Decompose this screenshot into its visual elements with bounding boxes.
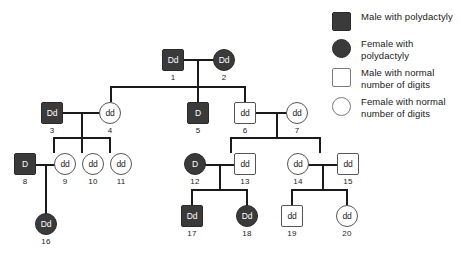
genotype-label-1: Dd (168, 56, 178, 65)
individual-8[interactable]: D (14, 153, 36, 175)
individual-18[interactable]: Dd (236, 205, 258, 227)
genotype-label-9: dd (60, 160, 69, 169)
individual-17[interactable]: Dd (181, 205, 203, 227)
id-label-12: 12 (182, 177, 208, 186)
descent-line-6-7 (276, 112, 278, 138)
sibling-drop-20 (346, 189, 348, 206)
genotype-label-11: dd (116, 160, 125, 169)
individual-1[interactable]: Dd (162, 49, 184, 71)
descent-line-8-9 (45, 164, 47, 214)
genotype-label-16: Dd (41, 220, 51, 229)
individual-7[interactable]: dd (286, 102, 308, 124)
genotype-label-6: dd (240, 109, 249, 118)
legend-item-female-affected: Female with polydactyly (332, 37, 462, 61)
sibling-drop-9 (53, 137, 55, 153)
genotype-label-18: Dd (242, 212, 252, 221)
id-label-3: 3 (39, 126, 65, 135)
sibling-drop-14 (319, 137, 321, 153)
individual-20[interactable]: dd (336, 205, 358, 227)
individual-10[interactable]: dd (82, 153, 104, 175)
id-label-13: 13 (232, 177, 258, 186)
sibling-drop-17 (191, 189, 193, 206)
legend-item-female-normal: Female with normal number of digits (332, 95, 462, 119)
genotype-label-4: dd (105, 109, 114, 118)
open-square-icon (332, 66, 356, 88)
id-label-6: 6 (232, 126, 258, 135)
individual-2[interactable]: Dd (213, 49, 235, 71)
sibship-bar-6-7 (230, 137, 321, 139)
descent-line-1-2 (197, 59, 199, 87)
id-label-15: 15 (335, 177, 361, 186)
legend-item-male-affected: Male with polydactyly (332, 10, 462, 32)
legend: Male with polydactyly Female with polyda… (332, 10, 462, 124)
descent-line-14-15 (322, 164, 324, 190)
individual-6[interactable]: dd (234, 102, 256, 124)
id-label-11: 11 (108, 177, 134, 186)
individual-4[interactable]: dd (99, 102, 121, 124)
id-label-7: 7 (284, 126, 310, 135)
genotype-label-3: Dd (47, 109, 57, 118)
individual-11[interactable]: dd (110, 153, 132, 175)
id-label-14: 14 (285, 177, 311, 186)
genotype-label-10: dd (88, 160, 97, 169)
id-label-10: 10 (80, 177, 106, 186)
descent-line-3-4 (81, 112, 83, 138)
individual-15[interactable]: dd (337, 153, 359, 175)
id-label-2: 2 (211, 73, 237, 82)
individual-5[interactable]: D (187, 102, 209, 124)
id-label-1: 1 (160, 73, 186, 82)
genotype-label-8: D (22, 160, 28, 169)
id-label-4: 4 (97, 126, 123, 135)
individual-9[interactable]: dd (54, 153, 76, 175)
sibship-bar-12-13 (191, 189, 248, 191)
legend-item-male-normal: Male with normal number of digits (332, 66, 462, 90)
genotype-label-2: Dd (219, 56, 229, 65)
open-circle-icon (332, 95, 356, 117)
legend-label-female-normal: Female with normal number of digits (361, 95, 462, 119)
sibling-drop-5 (197, 86, 199, 102)
filled-square-icon (332, 10, 356, 32)
id-label-20: 20 (334, 229, 360, 238)
genotype-label-17: Dd (187, 212, 197, 221)
individual-12[interactable]: D (184, 153, 206, 175)
individual-19[interactable]: dd (281, 205, 303, 227)
individual-14[interactable]: dd (287, 153, 309, 175)
individual-13[interactable]: dd (234, 153, 256, 175)
sibling-drop-10 (81, 137, 83, 153)
id-label-5: 5 (185, 126, 211, 135)
legend-label-male-affected: Male with polydactyly (361, 10, 453, 23)
descent-line-12-13 (219, 164, 221, 190)
genotype-label-19: dd (287, 212, 296, 221)
genotype-label-13: dd (240, 160, 249, 169)
individual-3[interactable]: Dd (41, 102, 63, 124)
genotype-label-15: dd (343, 160, 352, 169)
id-label-16: 16 (33, 237, 59, 246)
genotype-label-7: dd (292, 109, 301, 118)
sibling-drop-18 (246, 189, 248, 206)
genotype-label-12: D (192, 160, 198, 169)
sibling-drop-13 (230, 137, 232, 153)
sibship-bar-1-2 (110, 86, 246, 88)
id-label-8: 8 (12, 177, 38, 186)
sibling-drop-11 (109, 137, 111, 153)
legend-label-male-normal: Male with normal number of digits (361, 66, 462, 90)
genotype-label-14: dd (293, 160, 302, 169)
id-label-18: 18 (234, 229, 260, 238)
id-label-17: 17 (179, 229, 205, 238)
individual-16[interactable]: Dd (35, 213, 57, 235)
id-label-19: 19 (279, 229, 305, 238)
legend-label-female-affected: Female with polydactyly (361, 37, 462, 61)
pedigree-figure: Dd 1 Dd 2 Dd 3 dd 4 D 5 dd 6 dd 7 D 8 dd… (0, 0, 465, 253)
genotype-label-20: dd (342, 212, 351, 221)
sibling-drop-6 (244, 86, 246, 102)
genotype-label-5: D (195, 109, 201, 118)
filled-circle-icon (332, 37, 356, 59)
sibling-drop-4 (110, 86, 112, 102)
sibship-bar-14-15 (291, 189, 348, 191)
id-label-9: 9 (52, 177, 78, 186)
sibling-drop-19 (291, 189, 293, 206)
